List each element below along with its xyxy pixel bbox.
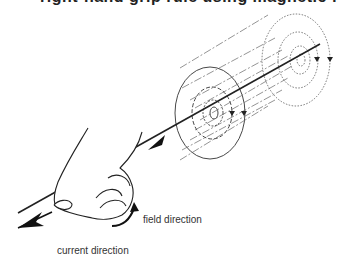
current-arrowhead-mid	[148, 135, 165, 150]
field-direction-label: field direction	[143, 214, 202, 225]
right-hand-rule-diagram	[0, 0, 338, 267]
current-direction-label: current direction	[57, 245, 129, 256]
near-field-circles	[175, 67, 245, 159]
far-field-circles	[262, 14, 330, 106]
hand-icon	[54, 128, 142, 219]
field-cylinder-lines	[180, 15, 292, 160]
